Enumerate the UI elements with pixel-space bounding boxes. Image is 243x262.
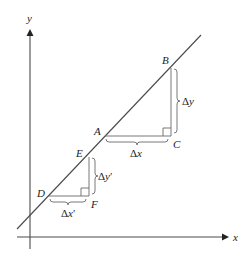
point-f-label: F [90, 198, 98, 210]
point-e-label: E [75, 147, 83, 159]
brace-delta-y [174, 69, 180, 133]
delta-x-label: Δx [130, 147, 142, 159]
slope-diagram: y x B A C E D F Δx Δy Δx′ Δy′ [0, 0, 243, 262]
x-axis-arrow-icon [222, 234, 229, 241]
y-axis-arrow-icon [27, 29, 34, 36]
brace-delta-x-prime [50, 199, 86, 205]
point-d-label: D [36, 187, 45, 199]
x-axis-label: x [232, 231, 238, 243]
delta-y-prime-label: Δy′ [98, 170, 112, 182]
right-angle-c-icon [163, 128, 171, 136]
point-c-label: C [173, 138, 181, 150]
point-a-label: A [93, 125, 101, 137]
y-axis-label: y [26, 12, 32, 24]
point-b-label: B [162, 54, 169, 66]
delta-y-label: Δy [182, 95, 194, 107]
brace-delta-x [106, 139, 168, 145]
main-line [17, 35, 201, 229]
right-angle-f-icon [81, 188, 89, 196]
delta-x-prime-label: Δx′ [61, 207, 75, 219]
